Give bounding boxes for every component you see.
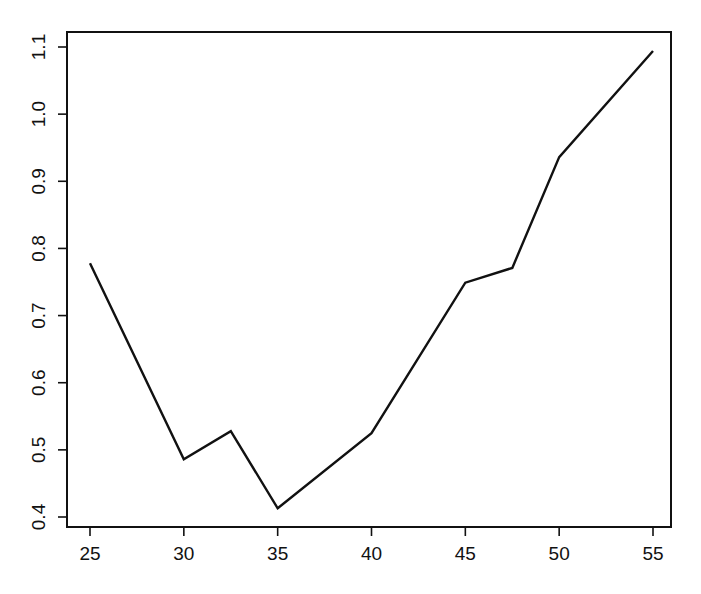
line-chart: 0.40.50.60.70.80.91.01.1 25303540455055 <box>0 0 701 594</box>
x-tick-label: 25 <box>79 543 100 564</box>
y-tick-label: 0.7 <box>28 302 49 328</box>
x-tick-label: 55 <box>642 543 663 564</box>
x-tick-label: 40 <box>361 543 382 564</box>
plot-frame <box>67 32 671 527</box>
x-tick-label: 50 <box>549 543 570 564</box>
x-tick-label: 45 <box>455 543 476 564</box>
y-tick-label: 0.5 <box>28 437 49 463</box>
y-tick-label: 0.6 <box>28 370 49 396</box>
x-tick-label: 35 <box>267 543 288 564</box>
y-tick-label: 0.4 <box>28 503 49 530</box>
x-axis: 25303540455055 <box>79 527 663 564</box>
y-axis: 0.40.50.60.70.80.91.01.1 <box>28 34 67 530</box>
y-tick-label: 1.1 <box>28 34 49 60</box>
data-line <box>90 51 653 508</box>
y-tick-label: 1.0 <box>28 101 49 127</box>
x-tick-label: 30 <box>173 543 194 564</box>
y-tick-label: 0.9 <box>28 168 49 194</box>
y-tick-label: 0.8 <box>28 235 49 261</box>
